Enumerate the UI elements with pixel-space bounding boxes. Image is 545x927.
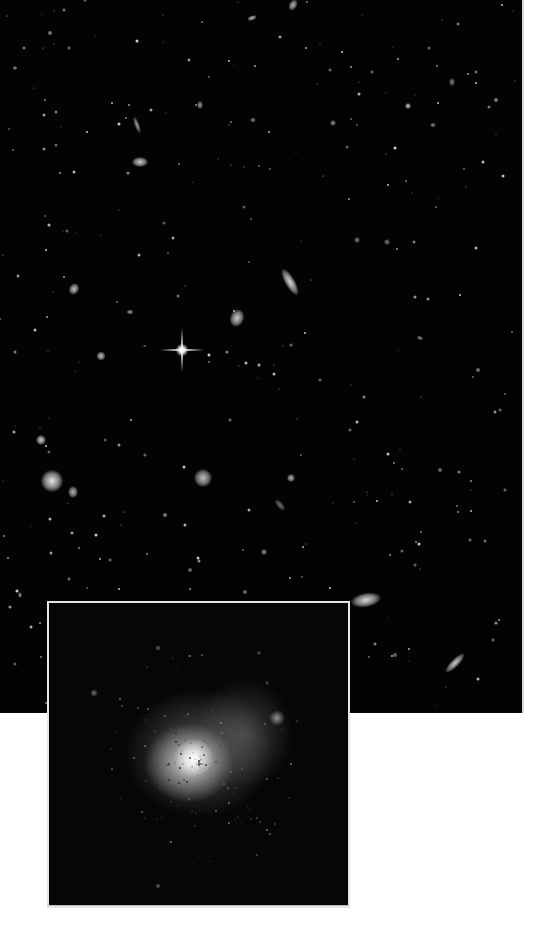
faint-galaxy-speck xyxy=(401,550,404,553)
galaxy xyxy=(22,46,26,50)
galaxy xyxy=(498,408,502,412)
galaxy xyxy=(503,488,507,492)
inset-galaxy-region xyxy=(265,681,270,686)
inset-noise-speck xyxy=(269,833,271,835)
faint-galaxy-speck xyxy=(362,15,363,16)
inset-noise-speck xyxy=(159,769,161,771)
inset-noise-speck xyxy=(200,756,201,757)
faint-galaxy-speck xyxy=(40,428,41,429)
inset-noise-speck xyxy=(259,821,261,823)
faint-galaxy-speck xyxy=(467,73,469,75)
inset-noise-speck xyxy=(217,696,218,697)
faint-galaxy-speck xyxy=(356,124,358,126)
galaxy xyxy=(163,513,168,518)
inset-zoom-image xyxy=(47,601,350,908)
faint-galaxy-speck xyxy=(163,15,164,16)
faint-galaxy-speck xyxy=(435,206,437,208)
faint-galaxy-speck xyxy=(68,503,69,504)
faint-galaxy-speck xyxy=(86,131,88,133)
inset-noise-speck xyxy=(212,710,213,711)
faint-galaxy-speck xyxy=(48,351,49,352)
inset-noise-speck xyxy=(145,817,146,818)
inset-noise-speck xyxy=(201,758,202,759)
inset-noise-speck xyxy=(162,817,163,818)
inset-noise-speck xyxy=(159,788,161,790)
faint-galaxy-speck xyxy=(45,249,47,251)
inset-noise-speck xyxy=(183,779,185,781)
inset-noise-speck xyxy=(158,757,159,758)
faint-galaxy-speck xyxy=(367,492,368,493)
inset-noise-speck xyxy=(241,716,242,717)
faint-galaxy-speck xyxy=(193,182,194,183)
faint-galaxy-speck xyxy=(42,14,43,15)
inset-noise-speck xyxy=(147,708,149,710)
galaxy xyxy=(48,31,53,36)
galaxy xyxy=(197,101,203,109)
faint-galaxy-speck xyxy=(189,588,191,590)
faint-galaxy-speck xyxy=(46,316,48,318)
faint-galaxy-speck xyxy=(144,345,146,347)
faint-galaxy-speck xyxy=(15,426,16,427)
faint-galaxy-speck xyxy=(201,21,203,23)
faint-galaxy-speck xyxy=(405,180,407,182)
inset-noise-speck xyxy=(215,810,217,812)
faint-galaxy-speck xyxy=(413,241,416,244)
inset-noise-speck xyxy=(233,793,234,794)
faint-galaxy-speck xyxy=(99,558,101,560)
inset-noise-speck xyxy=(221,732,223,734)
inset-noise-speck xyxy=(177,776,178,777)
inset-noise-speck xyxy=(154,730,156,732)
inset-noise-speck xyxy=(180,789,182,791)
faint-galaxy-speck xyxy=(48,451,51,454)
galaxy xyxy=(68,486,78,498)
faint-galaxy-speck xyxy=(409,501,412,504)
inset-noise-speck xyxy=(146,666,148,668)
inset-noise-speck xyxy=(156,818,157,819)
faint-galaxy-speck xyxy=(463,168,465,170)
faint-galaxy-speck xyxy=(243,206,246,209)
inset-galaxy-region xyxy=(257,651,262,656)
inset-noise-speck xyxy=(164,715,166,717)
faint-galaxy-speck xyxy=(258,378,259,379)
galaxy xyxy=(36,435,46,445)
inset-noise-speck xyxy=(220,783,221,784)
faint-galaxy-speck xyxy=(166,113,167,114)
faint-galaxy-speck xyxy=(136,40,139,43)
inset-noise-speck xyxy=(170,728,172,730)
inset-noise-speck xyxy=(203,754,205,756)
inset-noise-speck xyxy=(210,778,211,779)
faint-galaxy-speck xyxy=(55,111,58,114)
inset-noise-speck xyxy=(167,764,169,766)
galaxy xyxy=(348,428,352,432)
inset-noise-speck xyxy=(215,761,217,763)
inset-noise-speck xyxy=(137,707,139,709)
faint-galaxy-speck xyxy=(415,95,416,96)
inset-noise-speck xyxy=(227,733,228,734)
faint-galaxy-speck xyxy=(420,569,421,570)
faint-galaxy-speck xyxy=(125,117,127,119)
inset-noise-speck xyxy=(175,741,177,743)
faint-galaxy-speck xyxy=(437,706,438,707)
inset-noise-speck xyxy=(188,798,190,800)
faint-galaxy-speck xyxy=(438,198,439,199)
faint-galaxy-speck xyxy=(388,616,389,617)
galaxy xyxy=(393,653,398,658)
faint-galaxy-speck xyxy=(84,0,87,2)
inset-noise-speck xyxy=(196,812,197,813)
faint-galaxy-speck xyxy=(9,606,12,609)
galaxy xyxy=(18,592,22,598)
faint-galaxy-speck xyxy=(420,531,422,533)
faint-galaxy-speck xyxy=(283,346,284,347)
faint-galaxy-speck xyxy=(401,468,403,470)
galaxy xyxy=(328,68,332,72)
galaxy xyxy=(350,591,382,610)
inset-noise-speck xyxy=(266,791,267,792)
inset-noise-speck xyxy=(187,785,188,786)
faint-galaxy-speck xyxy=(68,578,71,581)
inset-noise-speck xyxy=(193,862,194,863)
faint-galaxy-speck xyxy=(258,364,261,367)
inset-noise-speck xyxy=(207,725,209,727)
faint-galaxy-speck xyxy=(350,66,352,68)
faint-galaxy-speck xyxy=(43,48,44,49)
galaxy xyxy=(318,378,322,382)
